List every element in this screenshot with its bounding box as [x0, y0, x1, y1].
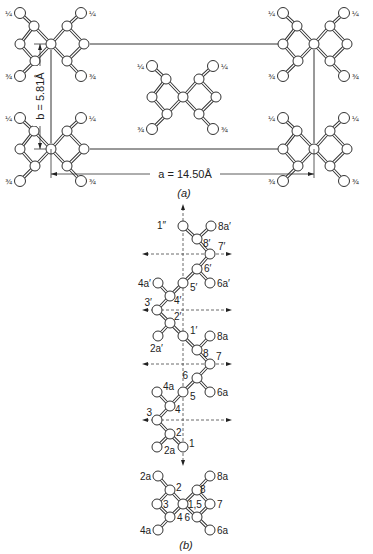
atom: [325, 56, 335, 66]
atom: [79, 39, 89, 49]
atom: [339, 71, 350, 82]
atom: [278, 113, 289, 124]
atom-label: ¾: [352, 177, 359, 186]
atom: [152, 305, 162, 315]
atom: [194, 109, 204, 119]
atom-label: 7′: [218, 241, 226, 252]
atom: [76, 176, 87, 187]
atom-label: 7: [217, 499, 223, 510]
atom-label: 2′: [174, 311, 182, 322]
b-dimension-label: b = 5.81Å: [34, 72, 46, 120]
atom: [15, 144, 25, 154]
atom: [46, 39, 56, 49]
atom-label: ¼: [89, 114, 96, 123]
atom: [161, 74, 171, 84]
atom: [79, 144, 89, 154]
twofold-arrow-left: [142, 252, 148, 256]
part-a-unit-cell: ¼¼¾¾¼¼¾¾¼¼¾¾¼¼¾¾¼¼¾¾ b = 5.81Å a = 14.50…: [5, 8, 359, 200]
atom: [30, 56, 40, 66]
atom: [178, 331, 188, 341]
atom: [76, 113, 87, 124]
atom: [278, 8, 289, 19]
atom-label: 4a: [163, 381, 175, 392]
twofold-arrow-right: [226, 418, 232, 422]
axis-arrow-up: [181, 204, 185, 210]
atom-label: 1′: [190, 325, 198, 336]
atom: [147, 61, 158, 72]
atom-label: ¾: [268, 72, 275, 81]
caption-a: (a): [177, 187, 191, 199]
atom: [152, 442, 162, 452]
atom: [153, 525, 163, 535]
atom-label: 2: [176, 427, 182, 438]
atom-label: 5: [190, 391, 196, 402]
part-b-chain: 1″8a′8′7′6′6a′5′4a′4′3′2′2a′1′8a8766a54a…: [138, 204, 232, 551]
atom-label: ¼: [352, 9, 359, 18]
chain-atoms: 1″8a′8′7′6′6a′5′4a′4′3′2′2a′1′8a8766a54a…: [138, 220, 231, 456]
caption-b: (b): [179, 539, 193, 551]
atom-label: 4a: [140, 525, 152, 536]
atom: [205, 249, 215, 259]
atom: [62, 56, 72, 66]
atom: [15, 8, 26, 19]
atom: [205, 359, 215, 369]
atom-label: 3: [163, 499, 169, 510]
atom-label: 2a′: [150, 343, 163, 354]
atom: [147, 92, 157, 102]
atom-label: ¼: [268, 9, 275, 18]
atom: [205, 471, 215, 481]
atom: [152, 499, 162, 509]
atom: [206, 221, 216, 231]
atom: [30, 161, 40, 171]
atom-label: 1: [189, 438, 195, 449]
atom-label: 1,5: [188, 499, 202, 510]
atom-label: 1″: [157, 220, 167, 231]
atom: [309, 39, 319, 49]
atom: [192, 373, 202, 383]
atom-label: 8a: [217, 471, 229, 482]
atom: [293, 161, 303, 171]
atom-label: 4: [177, 512, 183, 523]
atom: [205, 278, 215, 288]
atom-label: 6′: [204, 263, 212, 274]
twofold-arrow-right: [226, 308, 232, 312]
atom: [192, 234, 202, 244]
atom: [325, 21, 335, 31]
atom: [192, 512, 202, 522]
atom-label: ¾: [137, 125, 144, 134]
atom: [278, 144, 288, 154]
atom-label: 4a′: [138, 278, 151, 289]
atom: [278, 71, 289, 82]
atom-label: 2a: [140, 471, 152, 482]
figure-canvas: ¼¼¾¾¼¼¾¾¼¼¾¾¼¼¾¾¼¼¾¾ b = 5.81Å a = 14.50…: [0, 0, 373, 554]
tetramer-unit-center: ¼¼¾¾: [137, 61, 228, 135]
atom: [339, 8, 350, 19]
atom-label: ¾: [89, 72, 96, 81]
atom-label: ¾: [221, 125, 228, 134]
atom: [153, 278, 163, 288]
atom: [165, 401, 175, 411]
atom-label: 2: [176, 482, 182, 493]
atom: [342, 39, 352, 49]
atom: [165, 512, 175, 522]
atom: [178, 442, 188, 452]
atom-label: 8a: [217, 331, 229, 342]
projection-atoms: 2a8a2831,57464a6a: [140, 471, 229, 536]
atom: [292, 21, 302, 31]
atom: [165, 485, 175, 495]
atom: [339, 176, 350, 187]
twofold-arrow-right: [226, 362, 232, 366]
atom-label: ¼: [5, 114, 12, 123]
crystal-structure-figure: ¼¼¾¾¼¼¾¾¼¼¾¾¼¼¾¾¼¼¾¾ b = 5.81Å a = 14.50…: [0, 0, 373, 554]
atom-label: ¼: [221, 62, 228, 71]
atom: [194, 74, 204, 84]
atom: [15, 113, 26, 124]
atom-label: 6a: [217, 525, 229, 536]
atom: [208, 124, 219, 135]
atom-label: 8: [200, 484, 206, 495]
atom-label: ¾: [352, 72, 359, 81]
a-dimension-label: a = 14.50Å: [158, 168, 212, 180]
atom-label: 6a′: [217, 278, 230, 289]
atom: [29, 126, 39, 136]
atom: [165, 429, 175, 439]
